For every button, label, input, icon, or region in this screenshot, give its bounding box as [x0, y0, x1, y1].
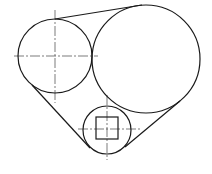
right-tangent-line: [125, 101, 180, 147]
technical-drawing: [0, 0, 212, 174]
top-tangent-line: [55, 5, 142, 19]
left-tangent-line: [32, 85, 90, 148]
large-circle: [92, 5, 200, 113]
